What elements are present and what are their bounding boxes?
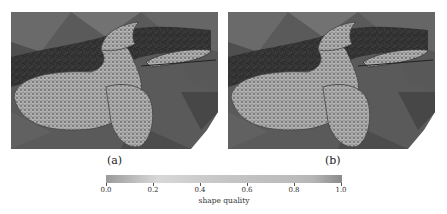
subfigure-label-b: (b) [325, 154, 341, 167]
colorbar-tick-label: 0.2 [147, 186, 158, 194]
shape-quality-colorbar [106, 175, 342, 183]
mesh-panel-a [11, 12, 218, 149]
colorbar-tick-label: 0.0 [100, 186, 111, 194]
propeller-mesh-render-b [228, 12, 435, 149]
colorbar-tick-label: 0.6 [241, 186, 252, 194]
mesh-panel-b [228, 12, 435, 149]
propeller-mesh-render-a [11, 12, 218, 149]
subfigure-label-a: (a) [107, 154, 122, 167]
colorbar-tick-label: 0.8 [288, 186, 299, 194]
colorbar-tick-label: 1.0 [335, 186, 346, 194]
colorbar-tick-label: 0.4 [194, 186, 205, 194]
colorbar-title: shape quality [199, 196, 250, 205]
